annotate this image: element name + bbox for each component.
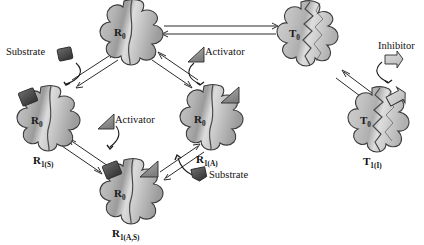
- arrow-r0-to-r1a: [152, 52, 198, 88]
- arrow-r0-to-t0: [162, 23, 278, 37]
- free-substrate-left-glyph: [57, 47, 73, 62]
- ligand-label-activator-lower: Activator: [115, 114, 155, 125]
- enzyme-state-r1a: R0: [180, 85, 243, 151]
- state-caption-r1as: R1(A,S): [112, 227, 140, 242]
- state-caption-r1a: R1(A): [196, 153, 218, 168]
- enzyme-state-t1i: T0: [348, 85, 409, 152]
- binding-arrow-inhibitor: [377, 62, 388, 82]
- enzyme-state-r1s: R0: [17, 86, 80, 152]
- ligand-label-activator-upper: Activator: [205, 46, 245, 57]
- binding-arrow-activator-upper: [189, 63, 200, 84]
- state-caption-t1i: T1(I): [363, 155, 382, 170]
- ligand-label-inhibitor: Inhibitor: [378, 40, 415, 51]
- free-activator-lower-glyph: [98, 114, 114, 129]
- arrow-r0-to-r1s: [72, 52, 118, 88]
- free-substrate-right-glyph: [191, 167, 207, 183]
- state-caption-r1s: R1(S): [33, 154, 54, 169]
- ligand-label-substrate-left: Substrate: [6, 46, 45, 57]
- binding-arrow-substrate-right: [178, 158, 192, 175]
- binding-arrow-substrate-left: [66, 63, 81, 84]
- enzyme-state-r0-top: R0: [100, 0, 163, 65]
- free-activator-upper-glyph: [188, 47, 204, 62]
- free-inhibitor-glyph: [385, 51, 403, 68]
- enzyme-state-r1as: R0: [100, 159, 163, 225]
- allosteric-state-diagram: R0 T0 R0 R0 T0: [0, 0, 424, 245]
- enzyme-state-t0: T0: [277, 1, 338, 66]
- ligand-label-substrate-right: Substrate: [209, 169, 248, 180]
- diagram-canvas: R0 T0 R0 R0 T0: [0, 0, 424, 245]
